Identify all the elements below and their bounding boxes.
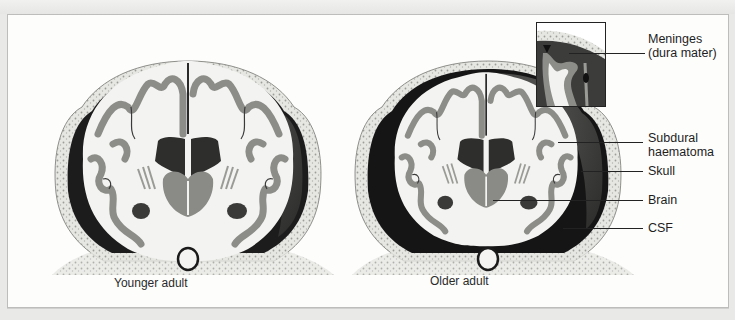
label-skull: Skull bbox=[648, 164, 675, 178]
label-subdural-haematoma: Subdural haematoma bbox=[648, 131, 714, 159]
label-csf: CSF bbox=[648, 221, 673, 235]
label-brain: Brain bbox=[648, 193, 677, 207]
caption-older-adult: Older adult bbox=[430, 274, 489, 288]
younger-adult-figure bbox=[38, 15, 338, 275]
caption-younger-adult: Younger adult bbox=[114, 276, 188, 290]
csf-leader bbox=[563, 228, 643, 229]
figure-frame: Meninges (dura mater) Subdural haematoma… bbox=[7, 14, 729, 308]
meninges-leader bbox=[569, 53, 645, 54]
meninges-inset bbox=[536, 22, 606, 107]
label-meninges: Meninges (dura mater) bbox=[648, 32, 717, 60]
subdural-leader bbox=[558, 142, 643, 143]
brain-leader bbox=[493, 200, 643, 201]
skull-leader bbox=[581, 171, 643, 172]
page-edge bbox=[0, 0, 735, 14]
